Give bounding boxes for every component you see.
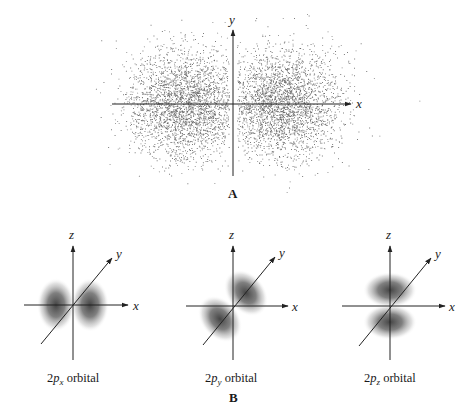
- y-axis-label: y: [227, 12, 235, 27]
- orbital-2px: z y x 2px orbital: [24, 227, 139, 387]
- z-axis-label: z: [228, 227, 234, 242]
- y-axis-label: y: [114, 246, 122, 261]
- panel-b: z y x 2px orbital z y x 2py orbital B z …: [24, 227, 455, 405]
- orbital-label-2pz: 2pz orbital: [364, 371, 416, 387]
- panel-a-label: A: [228, 186, 238, 201]
- x-axis-label: x: [291, 299, 298, 314]
- orbital-label-2px: 2px orbital: [47, 371, 100, 387]
- orbital-2pz: z y x 2pz orbital: [342, 227, 455, 387]
- orbital-figure: x y A z y x 2px orbital z y x 2py orbita…: [0, 0, 472, 409]
- x-axis-label: x: [448, 299, 455, 314]
- orbital-label-2py: 2py orbital: [205, 371, 258, 387]
- panel-b-label: B: [229, 390, 238, 405]
- panel-a: x y A: [96, 12, 420, 201]
- z-axis-label: z: [68, 227, 74, 242]
- x-axis-label: x: [355, 96, 362, 111]
- y-axis-label: y: [433, 246, 441, 261]
- orbital-2py: z y x 2py orbital B: [186, 227, 298, 405]
- z-axis-label: z: [385, 227, 391, 242]
- y-axis-label: y: [277, 245, 285, 260]
- x-axis-label: x: [132, 298, 139, 313]
